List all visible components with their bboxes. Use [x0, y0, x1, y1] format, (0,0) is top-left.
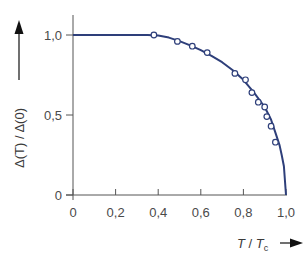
- y-axis-label-group: Δ(T) / Δ(0): [12, 20, 27, 168]
- x-tick-label: 0,4: [149, 205, 167, 220]
- x-axis-label-group: T / Tc: [237, 236, 303, 253]
- data-point: [190, 43, 196, 49]
- data-point: [204, 50, 210, 56]
- data-point: [151, 32, 157, 38]
- arrow-right-icon: [290, 239, 303, 248]
- x-tick-label: 0: [69, 205, 76, 220]
- data-point: [243, 77, 249, 83]
- y-tick-label: 1,0: [44, 28, 62, 43]
- data-point: [249, 90, 255, 96]
- curve-path: [73, 35, 286, 195]
- data-point: [262, 104, 268, 110]
- x-tick-label: 0,6: [192, 205, 210, 220]
- x-ticks: 00,20,40,60,81,0: [69, 189, 295, 220]
- data-points: [151, 32, 278, 145]
- data-point: [175, 39, 181, 45]
- data-point: [255, 99, 261, 105]
- x-tick-label: 0,2: [107, 205, 125, 220]
- data-point: [268, 123, 274, 129]
- y-tick-label: 0: [55, 188, 62, 203]
- y-ticks: 00,51,0: [44, 28, 73, 203]
- data-point: [264, 114, 270, 120]
- arrow-up-icon: [15, 20, 24, 34]
- data-point: [273, 139, 279, 145]
- theory-curve: [73, 35, 286, 195]
- y-axis-label: Δ(T) / Δ(0): [12, 108, 27, 168]
- data-point: [232, 71, 238, 77]
- x-axis-label: T / Tc: [237, 236, 269, 253]
- y-tick-label: 0,5: [44, 108, 62, 123]
- x-tick-label: 0,8: [234, 205, 252, 220]
- chart-canvas: 00,20,40,60,81,0 00,51,0 Δ(T) / Δ(0) T /…: [0, 0, 306, 261]
- x-tick-label: 1,0: [277, 205, 295, 220]
